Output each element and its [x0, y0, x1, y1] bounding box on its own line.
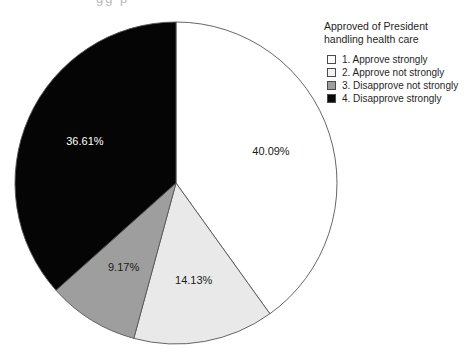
legend-item-label: 2. Approve not strongly — [342, 66, 444, 79]
legend-item: 1. Approve strongly — [322, 53, 468, 66]
pie-slice-value-label: 9.17% — [108, 261, 139, 273]
pie-slices-group — [15, 22, 337, 344]
chart-legend: Approved of President handling health ca… — [322, 20, 468, 105]
pie-slice-value-label: 36.61% — [66, 135, 104, 147]
pie-slice-value-label: 14.13% — [175, 274, 213, 286]
legend-item: 3. Disapprove not strongly — [322, 79, 468, 92]
legend-item-label: 4. Disapprove strongly — [342, 92, 442, 105]
legend-item: 2. Approve not strongly — [322, 66, 468, 79]
legend-item: 4. Disapprove strongly — [322, 92, 468, 105]
legend-item-label: 3. Disapprove not strongly — [342, 79, 458, 92]
legend-swatch-icon — [327, 68, 336, 77]
legend-item-label: 1. Approve strongly — [342, 53, 428, 66]
legend-swatch-icon — [327, 55, 336, 64]
pie-chart-figure: gg p 40.09%14.13%9.17%36.61% Approved of… — [0, 0, 468, 361]
legend-swatch-icon — [327, 94, 336, 103]
legend-item-list: 1. Approve strongly2. Approve not strong… — [322, 53, 468, 105]
legend-title: Approved of President handling health ca… — [324, 20, 468, 46]
pie-slice-value-label: 40.09% — [252, 145, 290, 157]
legend-swatch-icon — [327, 81, 336, 90]
